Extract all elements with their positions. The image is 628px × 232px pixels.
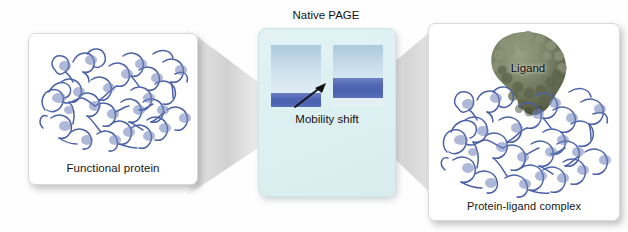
mobility-shift-arrow-icon: [293, 81, 331, 109]
panel-left-label: Functional protein: [29, 162, 197, 174]
panel-protein-ligand-complex: Ligand: [428, 23, 620, 221]
native-page-figure: Functional protein Native PAGE Mobility …: [0, 0, 628, 232]
mobility-shift-label: Mobility shift: [259, 113, 395, 125]
gel-title: Native PAGE: [258, 9, 394, 21]
panel-functional-protein: Functional protein: [28, 33, 198, 185]
protein-ribbon-icon: [435, 80, 613, 200]
gel-lane-2-band: [333, 78, 383, 98]
protein-ribbon-icon: [35, 40, 191, 156]
panel-native-page-gel: Mobility shift: [258, 28, 396, 197]
gel-lane-2: [333, 45, 383, 107]
panel-right-label: Protein-ligand complex: [429, 200, 619, 212]
